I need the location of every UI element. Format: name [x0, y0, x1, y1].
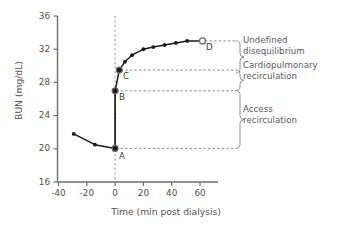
annotation-cardiopulmonary-recirculation: Cardiopulmonary recirculation	[243, 60, 318, 81]
data-point-markers	[72, 39, 189, 147]
data-point	[174, 41, 178, 45]
y-axis-title: BUN (mg/dL)	[13, 41, 24, 141]
y-tick-label: 36	[28, 11, 50, 21]
x-tick-label: 60	[189, 188, 211, 198]
data-point	[72, 132, 76, 136]
annotation-undefined-disequilibrium: Undefined disequilibrium	[243, 35, 305, 56]
x-tick-label: 40	[161, 188, 183, 198]
x-tick-label: 0	[104, 188, 126, 198]
y-tick-label: 16	[28, 177, 50, 187]
x-tick-label: -20	[76, 188, 98, 198]
data-point	[151, 45, 155, 49]
marker-point-c	[116, 67, 122, 73]
bracket-group	[236, 41, 244, 149]
data-point	[142, 47, 146, 51]
data-point	[130, 53, 134, 57]
data-point	[123, 60, 127, 64]
y-tick-label: 28	[28, 77, 50, 87]
point-label-b: B	[119, 92, 125, 102]
y-tick-label: 32	[28, 44, 50, 54]
marker-point-a	[112, 145, 118, 151]
marker-point-b	[112, 88, 118, 94]
y-tick-label: 24	[28, 110, 50, 120]
data-point	[185, 39, 189, 43]
x-axis-title: Time (min post dialysis)	[86, 206, 246, 217]
series-rebound-line	[115, 41, 198, 91]
reference-dashed-lines	[116, 41, 236, 148]
y-tick-label: 20	[28, 143, 50, 153]
point-label-d: D	[206, 42, 213, 52]
marker-point-d	[200, 38, 206, 44]
data-point	[163, 43, 167, 47]
labeled-point-markers	[112, 38, 205, 151]
annotation-access-recirculation: Access recirculation	[243, 104, 297, 125]
x-tick-label: 20	[132, 188, 154, 198]
point-label-a: A	[119, 151, 125, 161]
chart-figure: 36 32 28 24 20 16 -40 -20 0 20 40 60 Tim…	[0, 0, 343, 228]
x-tick-label: -40	[48, 188, 70, 198]
data-point	[93, 143, 97, 147]
point-label-c: C	[123, 71, 129, 81]
